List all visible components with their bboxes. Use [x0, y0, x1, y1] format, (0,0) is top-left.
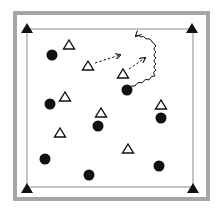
opponent-triangle-icon	[118, 69, 129, 78]
player-triangles	[55, 40, 167, 153]
player-dot-icon	[122, 85, 133, 96]
opponent-triangle-icon	[60, 92, 71, 101]
opponent-triangle-icon	[96, 108, 107, 117]
movement-arrows	[95, 35, 156, 88]
pass-arrow	[95, 55, 120, 63]
cone-marker-icon	[21, 183, 33, 193]
player-dot-icon	[154, 161, 165, 172]
outer-border-rect	[15, 13, 208, 199]
cone-marker-icon	[21, 23, 33, 33]
opponent-triangle-icon	[123, 144, 134, 153]
player-dot-icon	[40, 154, 51, 165]
drill-diagram	[0, 0, 221, 208]
outer-border	[15, 13, 208, 199]
cone-marker-icon	[187, 183, 199, 193]
player-dot-icon	[45, 99, 56, 110]
opponent-triangle-icon	[83, 61, 94, 70]
opponent-triangle-icon	[55, 128, 66, 137]
player-dot-icon	[93, 121, 104, 132]
player-dot-icon	[156, 113, 167, 124]
dribble-arrow	[128, 35, 156, 88]
player-dot-icon	[84, 170, 95, 181]
opponent-triangle-icon	[156, 100, 167, 109]
diagram-canvas	[0, 0, 221, 208]
pass-arrow	[129, 58, 145, 69]
player-dot-icon	[47, 50, 58, 61]
opponent-triangle-icon	[64, 40, 75, 49]
cone-marker-icon	[186, 23, 198, 33]
